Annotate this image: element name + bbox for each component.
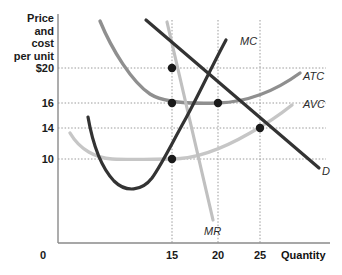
curve-mr <box>167 22 213 220</box>
x-tick-25: 25 <box>249 249 271 261</box>
y-axis-title-line-2: and <box>2 25 54 38</box>
y-axis-title: Price and cost per unit <box>2 12 54 62</box>
y-tick-16: 16 <box>10 97 54 109</box>
x-axis-title: Quantity <box>281 249 326 261</box>
curve-label-avc: AVC <box>303 98 325 110</box>
point-q15-p16 <box>168 99 176 107</box>
curve-label-mr: MR <box>204 225 221 237</box>
curve-avc <box>70 105 292 159</box>
economics-cost-curve-chart: Price and cost per unit $20 16 14 10 0 1… <box>0 0 342 275</box>
point-q20-p16 <box>214 99 222 107</box>
curve-label-d: D <box>322 165 330 177</box>
x-tick-20: 20 <box>207 249 229 261</box>
x-tick-15: 15 <box>161 249 183 261</box>
y-tick-20: $20 <box>10 62 54 74</box>
y-tick-10: 10 <box>10 153 54 165</box>
point-q15-p20 <box>168 64 176 72</box>
point-q15-p10 <box>168 155 176 163</box>
curve-mc <box>88 40 226 189</box>
y-tick-14: 14 <box>10 122 54 134</box>
curve-label-atc: ATC <box>303 70 324 82</box>
x-tick-0: 0 <box>33 249 53 261</box>
y-axis-title-line-1: Price <box>2 12 54 25</box>
y-axis-title-line-3: cost <box>2 37 54 50</box>
point-q25-p14 <box>256 124 264 132</box>
curve-label-mc: MC <box>240 35 257 47</box>
y-axis-title-line-4: per unit <box>2 50 54 63</box>
